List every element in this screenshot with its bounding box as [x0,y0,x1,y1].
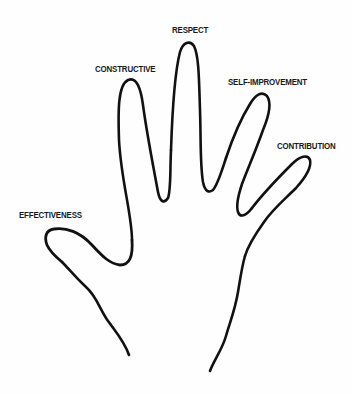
hand-diagram: EFFECTIVENESS CONSTRUCTIVE RESPECT SELF-… [0,0,352,394]
label-index-constructive: CONSTRUCTIVE [95,64,155,74]
label-pinky-contribution: CONTRIBUTION [277,141,336,151]
index-finger-stroke [119,79,171,240]
right-wrist-stroke [210,256,245,371]
hand-outline-drawing [0,0,352,394]
ring-finger-stroke [226,94,269,216]
label-thumb-effectiveness: EFFECTIVENESS [19,210,82,220]
thumb-stroke [46,229,133,265]
middle-finger-stroke [171,43,226,192]
left-wrist-stroke [62,262,129,355]
label-ring-self-improvement: SELF-IMPROVEMENT [228,77,307,87]
pinky-finger-stroke [245,157,310,256]
label-middle-respect: RESPECT [172,25,208,35]
